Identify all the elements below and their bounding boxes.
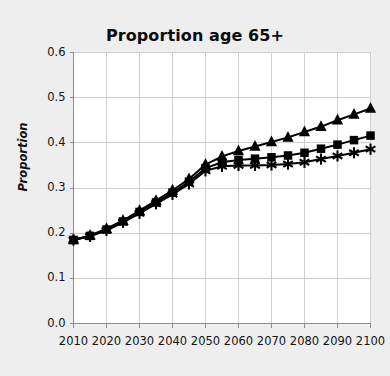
chart-container: Proportion age 65+ Proportion 0.00.10.20… (0, 0, 390, 376)
data-point-square (333, 140, 342, 149)
data-point-square (366, 131, 375, 140)
data-point-square (350, 136, 359, 145)
data-point-square (284, 151, 293, 160)
plot-area (0, 0, 390, 376)
data-point-square (300, 149, 309, 158)
data-point-square (317, 144, 326, 153)
